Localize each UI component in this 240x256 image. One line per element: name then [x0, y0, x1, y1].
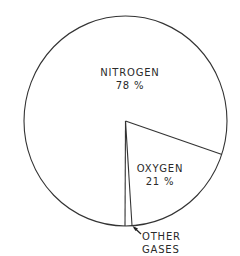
slice-divider-nitrogen-lower	[125, 121, 126, 226]
arrow-icon	[133, 226, 142, 234]
oxygen-label: OXYGEN 21 %	[135, 162, 185, 188]
nitrogen-value: 78 %	[95, 79, 165, 92]
nitrogen-name: NITROGEN	[95, 66, 165, 79]
oxygen-name: OXYGEN	[135, 162, 185, 175]
nitrogen-label: NITROGEN 78 %	[95, 66, 165, 92]
oxygen-value: 21 %	[135, 175, 185, 188]
other-gases-label: OTHER GASES	[142, 230, 222, 256]
